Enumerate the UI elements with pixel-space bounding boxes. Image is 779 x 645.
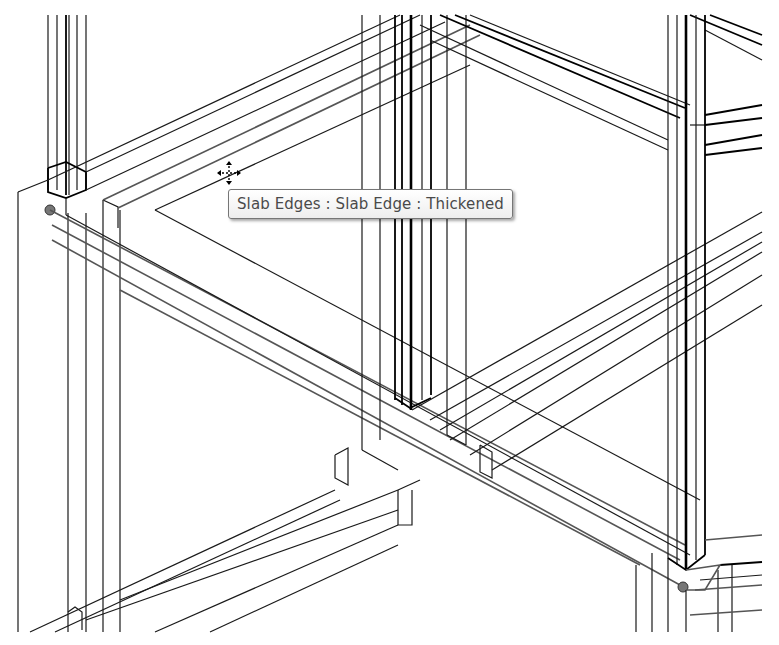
slab-edge-thickened[interactable] bbox=[45, 205, 700, 592]
left-column[interactable] bbox=[48, 15, 86, 215]
lower-right-corner bbox=[636, 535, 762, 632]
right-beams bbox=[412, 212, 762, 470]
left-pier bbox=[18, 180, 120, 632]
wireframe-model bbox=[0, 0, 779, 645]
footing-beams bbox=[30, 490, 398, 632]
upper-beam-right bbox=[420, 15, 762, 155]
center-footing bbox=[335, 435, 492, 525]
3d-view-canvas[interactable]: Slab Edges : Slab Edge : Thickened bbox=[0, 0, 779, 645]
element-tooltip: Slab Edges : Slab Edge : Thickened bbox=[228, 189, 513, 219]
move-cursor-icon bbox=[216, 160, 242, 186]
upper-beam-left bbox=[48, 15, 480, 210]
